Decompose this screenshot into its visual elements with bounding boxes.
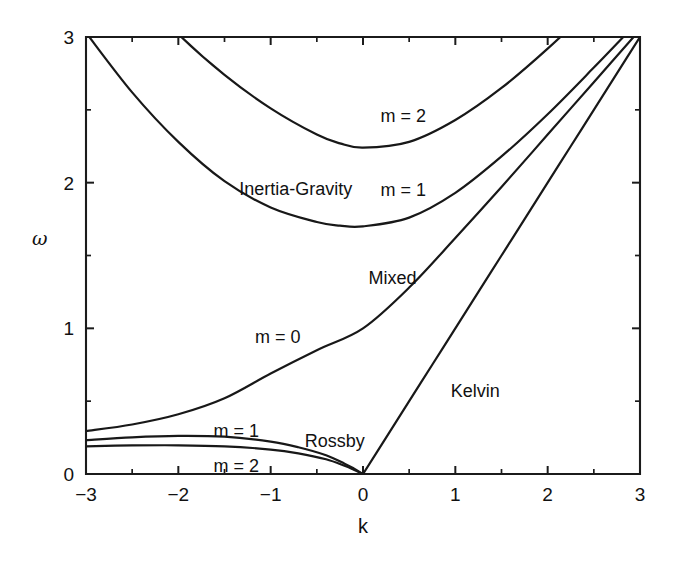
curve-Kelvin <box>363 37 640 474</box>
y-tick-label: 2 <box>0 173 74 192</box>
x-tick-label: −1 <box>260 485 282 504</box>
curve-mixed-rossby-gravity <box>86 30 640 431</box>
axis-box <box>86 37 640 474</box>
curve-set <box>86 0 640 474</box>
x-tick-label: 2 <box>542 485 553 504</box>
x-tick-label: 3 <box>635 485 646 504</box>
x-axis-title: k <box>358 516 368 536</box>
y-axis-title: ω <box>32 229 48 248</box>
y-tick-label: 1 <box>0 319 74 338</box>
y-tick-label: 3 <box>0 28 74 47</box>
annotation-mrg-m0: m = 0 <box>255 328 301 346</box>
x-tick-label: −3 <box>75 485 97 504</box>
annotation-ig-m2: m = 2 <box>381 107 427 125</box>
annotation-ig-m1: m = 1 <box>381 181 427 199</box>
annotation-inertia-gravity: Inertia-Gravity <box>239 180 352 198</box>
x-tick-label: 1 <box>450 485 461 504</box>
annotation-kelvin: Kelvin <box>451 382 500 400</box>
annotation-rossby-m2: m = 2 <box>213 457 259 475</box>
annotation-mixed: Mixed <box>369 269 417 287</box>
plot-canvas <box>0 0 678 564</box>
annotation-rossby-m1: m = 1 <box>213 422 259 440</box>
x-tick-label: 0 <box>358 485 369 504</box>
x-tick-label: −2 <box>167 485 189 504</box>
annotation-rossby: Rossby <box>305 432 365 450</box>
y-tick-label: 0 <box>0 465 74 484</box>
axis-ticks <box>86 37 640 474</box>
dispersion-diagram-figure: −3−2−10123 0123 Inertia-Gravitym = 2m = … <box>0 0 678 564</box>
axes <box>86 37 640 474</box>
